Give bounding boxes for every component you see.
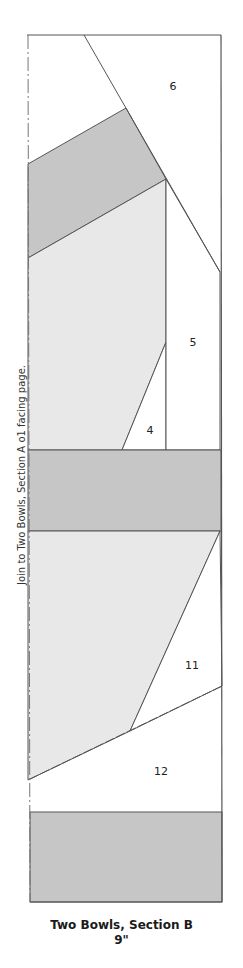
join-instruction-note: Join to Two Bowls, Section A o1 facing p…	[16, 365, 27, 585]
bottom-dark-band	[30, 812, 222, 902]
middle-dark-band	[28, 450, 221, 531]
piece-label-6: 6	[170, 80, 177, 93]
diagram-size: 9"	[0, 933, 243, 947]
piece-label-5: 5	[190, 336, 197, 349]
piece-label-11: 11	[185, 659, 199, 672]
diagram-title: Two Bowls, Section B	[0, 918, 243, 932]
frame-right	[221, 35, 222, 902]
pattern-diagram: 6 5 4 11 12	[0, 0, 243, 968]
piece-label-12: 12	[154, 765, 168, 778]
piece-label-4: 4	[147, 424, 154, 437]
